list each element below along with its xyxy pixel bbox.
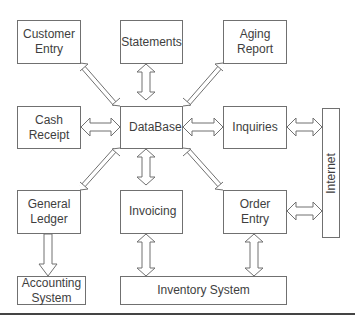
node-order-entry-label: Order Entry [240, 197, 271, 227]
node-statements-label: Statements [121, 35, 182, 50]
node-accounting-system-label: Accounting System [22, 276, 81, 306]
arrow-statements-database [137, 64, 155, 100]
node-database-label: DataBase [129, 120, 182, 135]
arrow-ledger-accounting [39, 234, 57, 276]
node-inquiries-label: Inquiries [232, 120, 277, 135]
arrow-database-inquiries [183, 118, 223, 136]
node-accounting-system: Accounting System [17, 276, 86, 305]
node-statements: Statements [120, 20, 183, 64]
node-order-entry: Order Entry [223, 190, 287, 234]
node-inventory-system: Inventory System [120, 276, 287, 305]
bottom-rule [0, 313, 355, 315]
node-database: DataBase [120, 106, 183, 149]
node-customer-entry-label: Customer Entry [23, 27, 75, 57]
arrow-database-invoicing [137, 149, 155, 185]
node-invoicing: Invoicing [120, 190, 183, 234]
node-cash-receipt-label: Cash Receipt [29, 113, 70, 143]
node-inquiries: Inquiries [223, 106, 287, 149]
node-customer-entry: Customer Entry [17, 20, 81, 64]
node-internet-label: Internet [324, 153, 339, 194]
node-invoicing-label: Invoicing [129, 204, 176, 219]
node-inventory-system-label: Inventory System [157, 283, 250, 298]
node-internet: Internet [322, 108, 340, 238]
arrow-invoicing-inventory [137, 234, 155, 276]
node-cash-receipt: Cash Receipt [17, 106, 81, 149]
arrow-orderentry-inventory [245, 234, 263, 276]
node-general-ledger-label: General Ledger [28, 197, 71, 227]
arrow-orderentry-internet [287, 202, 322, 220]
arrow-cash-database [81, 118, 120, 136]
node-aging-report: Aging Report [223, 20, 287, 64]
node-aging-report-label: Aging Report [237, 27, 273, 57]
node-general-ledger: General Ledger [17, 190, 81, 234]
arrow-inquiries-internet [287, 118, 322, 136]
